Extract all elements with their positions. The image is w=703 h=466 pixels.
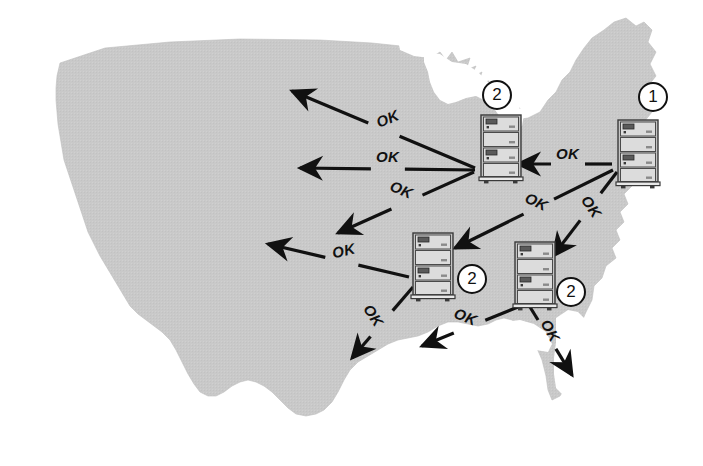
ok-label-arrow-s1-to-gl: OK	[554, 145, 581, 162]
server-rack-icon-east-coast[interactable]	[615, 118, 661, 189]
replication-map-diagram: 1222 OKOKOKOKOKOKOKOKOKOK	[0, 0, 703, 466]
us-map-canvas	[0, 0, 703, 466]
arrow-se-west-shaft-far	[422, 333, 454, 346]
arrow-gl-west-shaft-near	[405, 169, 475, 170]
ok-label-arrow-gl-west: OK	[374, 148, 401, 165]
server-rack-icon-southeast[interactable]	[512, 240, 558, 311]
arrow-gl-west-shaft-far	[300, 168, 371, 169]
server-badge-east-coast: 1	[638, 82, 668, 112]
server-badge-great-lakes: 2	[482, 80, 512, 110]
server-badge-southeast: 2	[556, 277, 586, 307]
server-rack-icon-great-lakes[interactable]	[478, 113, 524, 184]
server-rack-icon-central[interactable]	[410, 231, 456, 302]
server-badge-central: 2	[457, 264, 487, 294]
us-map-silhouette	[56, 18, 656, 416]
